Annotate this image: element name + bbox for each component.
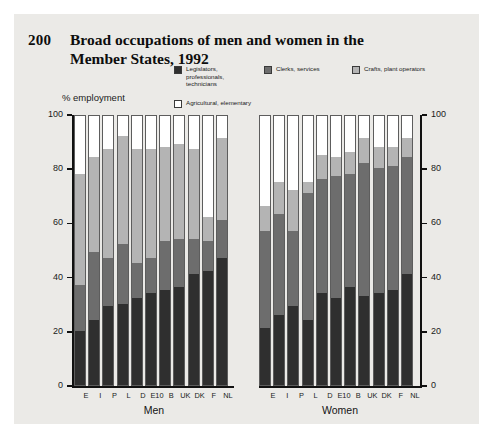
bar-segment-women-F-crafts (388, 147, 398, 166)
bar-segment-men-I-clerks (89, 252, 99, 320)
bar-segment-men-UK-legislators (174, 287, 184, 385)
bar-segment-men-E10-crafts (146, 149, 156, 257)
stacked-bar-women-I[interactable] (273, 115, 285, 386)
x-axis-women (259, 386, 422, 388)
stacked-bar-women-F[interactable] (387, 115, 399, 386)
stacked-bar-women-NL[interactable] (401, 115, 413, 386)
stacked-bar-men-F[interactable] (202, 115, 214, 386)
legend-swatch-clerks (264, 66, 272, 74)
stacked-bar-women-UK[interactable] (358, 115, 370, 386)
bar-segment-men-D-legislators (132, 298, 142, 385)
bar-segment-men-UK-clerks (174, 239, 184, 288)
stacked-bar-men-L[interactable] (117, 115, 129, 386)
bar-segment-women-NL-legislators (402, 274, 412, 385)
bar-segment-women-D-legislators (317, 293, 327, 385)
bar-segment-men-L-agricultural (118, 115, 128, 136)
bar-segment-women-E10-agricultural (331, 115, 341, 157)
bar-segment-men-E10-legislators (146, 293, 156, 385)
bar-segment-women-I-crafts (274, 182, 284, 215)
bar-segment-men-F-clerks (203, 241, 213, 271)
stacked-bar-men-NL[interactable] (216, 115, 228, 386)
bar-segment-men-P-clerks (103, 258, 113, 307)
y-tick-label-left-20: 20 (39, 326, 63, 336)
y-tick-left-20 (67, 331, 72, 333)
bar-segment-men-E-clerks (75, 285, 85, 331)
bar-segment-women-E10-crafts (331, 157, 341, 176)
plot-area-men (74, 115, 234, 386)
bar-segment-women-E-clerks (260, 231, 270, 329)
bar-segment-men-P-agricultural (103, 115, 113, 149)
bar-segment-men-P-legislators (103, 306, 113, 385)
bar-segment-men-NL-crafts (217, 138, 227, 219)
bar-segment-men-B-legislators (160, 290, 170, 385)
bar-segment-women-F-clerks (388, 166, 398, 291)
bar-segment-women-UK-clerks (359, 163, 369, 296)
bar-segment-women-F-agricultural (388, 115, 398, 147)
bar-segment-women-P-agricultural (288, 115, 298, 190)
y-tick-right-60 (422, 223, 427, 225)
y-tick-right-40 (422, 277, 427, 279)
y-tick-right-100 (422, 114, 427, 116)
bar-segment-women-NL-crafts (402, 138, 412, 157)
stacked-bar-men-I[interactable] (88, 115, 100, 386)
bar-segment-men-E-legislators (75, 331, 85, 385)
bar-segment-women-L-agricultural (303, 115, 313, 182)
x-label-women-NL: NL (404, 391, 426, 400)
stacked-bar-men-DK[interactable] (188, 115, 200, 386)
x-axis-men (72, 386, 234, 388)
stacked-bar-men-E[interactable] (74, 115, 86, 386)
bar-segment-women-I-agricultural (274, 115, 284, 182)
bar-segment-men-E10-agricultural (146, 115, 156, 149)
bar-segment-men-DK-clerks (189, 239, 199, 274)
bar-segment-men-F-crafts (203, 217, 213, 241)
y-tick-label-left-80: 80 (39, 163, 63, 173)
plot-area-women (259, 115, 419, 386)
page-title: Broad occupations of men and women in th… (70, 30, 390, 68)
stacked-bar-women-D[interactable] (316, 115, 328, 386)
bar-segment-men-B-agricultural (160, 115, 170, 147)
bar-segment-women-NL-agricultural (402, 115, 412, 138)
stacked-bar-men-E10[interactable] (145, 115, 157, 386)
y-axis-caption: % employment (62, 92, 125, 103)
bar-segment-women-P-clerks (288, 231, 298, 307)
stacked-bar-men-B[interactable] (159, 115, 171, 386)
bar-segment-men-F-agricultural (203, 115, 213, 217)
bar-segment-men-E-crafts (75, 174, 85, 285)
y-tick-left-0 (67, 385, 72, 387)
bar-segment-men-E-agricultural (75, 115, 85, 174)
bar-segment-women-E-legislators (260, 328, 270, 385)
stacked-bar-women-B[interactable] (344, 115, 356, 386)
stacked-bar-women-L[interactable] (302, 115, 314, 386)
x-label-men-NL: NL (217, 391, 239, 400)
stacked-bar-women-DK[interactable] (373, 115, 385, 386)
legend-label-legislators: Legislators, professionals, technicians (186, 65, 224, 88)
bar-segment-women-L-legislators (303, 320, 313, 385)
stacked-bar-men-UK[interactable] (173, 115, 185, 386)
group-label-men: Men (109, 404, 199, 416)
stacked-bar-women-E[interactable] (259, 115, 271, 386)
bar-segment-women-D-agricultural (317, 115, 327, 155)
legend-label-agricultural: Agricultural, elementary (186, 99, 251, 107)
bar-segment-women-E10-legislators (331, 298, 341, 385)
stacked-bar-women-E10[interactable] (330, 115, 342, 386)
figure-panel: 200 Broad occupations of men and women i… (14, 14, 479, 424)
bar-segment-women-UK-agricultural (359, 115, 369, 138)
bar-segment-men-B-crafts (160, 147, 170, 242)
bar-segment-women-P-legislators (288, 306, 298, 385)
y-tick-left-40 (67, 277, 72, 279)
bar-segment-women-F-legislators (388, 290, 398, 385)
legend-label-clerks: Clerks, services (276, 65, 320, 73)
y-tick-left-60 (67, 223, 72, 225)
stacked-bar-men-P[interactable] (102, 115, 114, 386)
bar-segment-women-B-crafts (345, 152, 355, 174)
bar-segment-women-E10-clerks (331, 176, 341, 298)
y-tick-label-left-60: 60 (39, 217, 63, 227)
bar-segment-women-DK-clerks (374, 168, 384, 293)
bar-segment-men-L-crafts (118, 136, 128, 244)
stacked-bar-men-D[interactable] (131, 115, 143, 386)
figure-number: 200 (28, 32, 51, 49)
bar-segment-men-DK-agricultural (189, 115, 199, 149)
bar-segment-women-DK-agricultural (374, 115, 384, 147)
bar-segment-men-L-legislators (118, 304, 128, 385)
stacked-bar-women-P[interactable] (287, 115, 299, 386)
